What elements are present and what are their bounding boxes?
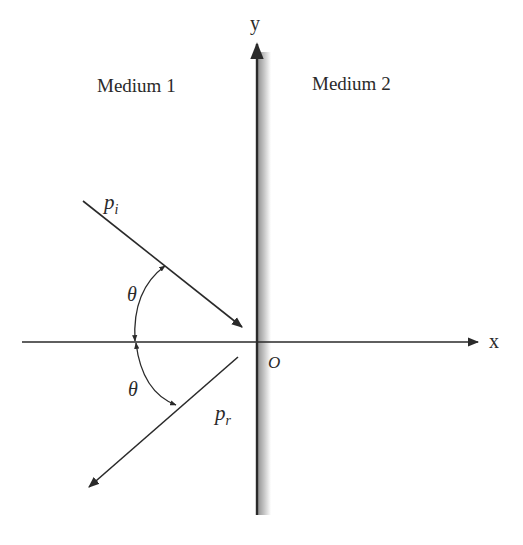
origin-label: O: [268, 353, 280, 372]
incident-ray: [83, 201, 242, 327]
x-axis-label: x: [489, 330, 499, 352]
upper-angle-arc: [135, 266, 165, 341]
lower-angle-arc: [136, 343, 176, 405]
medium-2-label: Medium 2: [312, 73, 391, 94]
incident-ray-label: pi: [102, 190, 119, 217]
lower-angle-label: θ: [128, 378, 138, 400]
medium-1-label: Medium 1: [97, 75, 176, 96]
boundary-shade: [257, 52, 271, 515]
reflected-ray-label: pr: [213, 401, 232, 428]
reflection-diagram: y x O Medium 1 Medium 2 pi pr θ θ: [0, 0, 523, 545]
upper-angle-label: θ: [127, 283, 137, 305]
y-axis-label: y: [250, 12, 260, 35]
